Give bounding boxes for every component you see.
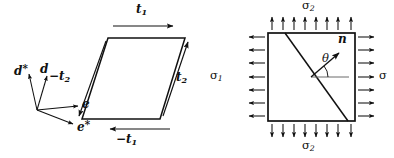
angle-label-theta: θ xyxy=(322,53,329,65)
traction-label-t1-top: t1 xyxy=(136,3,147,16)
traction-label-t2-right: t2 xyxy=(176,71,187,84)
basis-label-e: e xyxy=(82,98,90,110)
stress-arrows-right xyxy=(358,37,374,116)
e-axis-arrow xyxy=(37,106,78,110)
stress-label-sigma2-bottom: σ2 xyxy=(302,140,315,153)
stress-arrows-bottom xyxy=(272,124,351,137)
normal-vector-label-n: n xyxy=(338,33,347,45)
stress-label-sigma2-top: σ2 xyxy=(302,0,315,13)
basis-label-d: d xyxy=(40,63,48,75)
stress-arrows-left xyxy=(249,37,265,116)
mechanics-figure: d* d e e* t1 t2 −t2 −t1 σ2 σ2 σ1 σ n θ xyxy=(0,0,394,158)
d-axis-arrow xyxy=(37,76,47,110)
d-star-axis-arrow xyxy=(29,74,37,110)
stress-label-sigma1-left: σ1 xyxy=(210,70,223,83)
parallelogram-shape xyxy=(82,38,185,119)
angle-theta-arc xyxy=(324,66,328,77)
stress-arrows-top xyxy=(272,17,351,30)
traction-label-neg-t1-bottom: −t1 xyxy=(116,133,137,146)
basis-label-e-star: e* xyxy=(77,119,90,133)
stress-label-sigma-right: σ xyxy=(379,70,387,83)
parallelogram-outline xyxy=(82,38,185,119)
traction-label-neg-t2-left: −t2 xyxy=(49,70,70,83)
e-star-axis-arrow xyxy=(37,110,73,124)
basis-label-d-star: d* xyxy=(14,63,28,77)
